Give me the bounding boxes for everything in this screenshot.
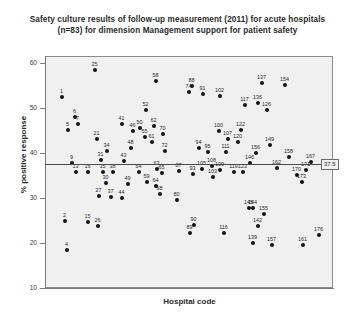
data-point [283,83,287,87]
data-point-label: 37 [108,188,114,194]
data-point-label: 43 [121,152,127,158]
data-point-label: 155 [259,205,268,211]
data-point-label: 46 [130,122,136,128]
y-axis-tick-label: 20 [13,239,37,246]
data-point-label: 102 [215,87,224,93]
data-point [161,132,165,136]
data-point-label: 116 [219,224,228,230]
data-point [224,150,228,154]
data-point-label: 103 [208,168,217,174]
x-axis-line [45,288,334,289]
y-axis-tick [40,288,45,289]
data-point-label: 31 [98,151,104,157]
y-axis-tick [40,108,45,109]
data-point-label: 48 [128,139,134,145]
data-point-label: 21 [94,130,100,136]
data-point-label: 176 [314,226,323,232]
data-point [217,129,221,133]
data-point [191,172,195,176]
data-point [206,150,210,154]
data-point-label: 87 [176,162,182,168]
data-point-label: 41 [119,115,125,121]
data-point [201,92,205,96]
data-point [66,128,70,132]
data-point-label: 145 [244,199,253,205]
data-point [192,223,196,227]
data-point-label: 158 [284,148,293,154]
data-point-label: 49 [125,175,131,181]
data-point-label: 154 [280,76,289,82]
chart-title-line-1: Safety culture results of follow-up meas… [30,15,325,24]
data-point [200,167,204,171]
data-point [86,170,90,174]
data-point [126,182,130,186]
data-point [226,137,230,141]
data-point-label: 62 [151,117,157,123]
data-point-label: 167 [306,153,315,159]
data-point [188,231,192,235]
data-point-label: 6 [73,108,76,114]
data-point-label: 120 [233,133,242,139]
data-point [95,137,99,141]
data-point [63,219,67,223]
reference-line [45,164,323,165]
data-point-label: 94 [196,139,202,145]
data-point [256,101,260,105]
y-axis-tick-label: 60 [13,59,37,66]
data-point [65,248,69,252]
data-point [101,170,105,174]
data-point-label: 136 [253,94,262,100]
data-point [247,206,251,210]
data-point [60,95,64,99]
data-point-label: 156 [251,144,260,150]
data-point-label: 7 [76,115,79,121]
data-point-label: 93 [190,165,196,171]
data-point-label: 137 [257,74,266,80]
data-point [265,108,269,112]
data-point [144,108,148,112]
data-point [239,128,243,132]
data-point [218,94,222,98]
data-point [111,170,115,174]
data-point [177,169,181,173]
data-point-label: 111 [221,143,229,149]
data-point-label: 157 [267,236,276,242]
y-axis-tick-label: 10 [13,284,37,291]
data-point-label: 26 [95,217,101,223]
data-point [120,196,124,200]
data-point [145,180,149,184]
data-point-label: 61 [149,133,155,139]
data-point-label: 50 [137,119,143,125]
data-point [275,166,279,170]
y-axis-tick [40,63,45,64]
data-point-label: 80 [174,191,180,197]
data-point [74,170,78,174]
data-point [154,79,158,83]
data-point [96,224,100,228]
data-point [256,224,260,228]
data-point [97,194,101,198]
data-point-label: 142 [253,217,262,223]
data-point-label: 95 [205,143,211,149]
data-point-label: 58 [153,72,159,78]
data-point [137,170,141,174]
data-point [236,140,240,144]
data-point [304,168,308,172]
data-point [163,149,167,153]
chart-root: Safety culture results of follow-up meas… [0,0,355,317]
data-point-label: 91 [200,85,206,91]
data-point [105,149,109,153]
data-point-label: 52 [143,101,149,107]
data-point [262,212,266,216]
y-axis-line [45,56,46,289]
data-point-label: 139 [248,234,257,240]
data-point-label: 88 [189,77,195,83]
data-point [218,168,222,172]
data-point-label: 27 [96,187,102,193]
data-point [222,231,226,235]
data-point-label: 5 [66,121,69,127]
y-axis-tick [40,198,45,199]
data-point [152,124,156,128]
data-point [197,146,201,150]
y-axis-tick [40,153,45,154]
